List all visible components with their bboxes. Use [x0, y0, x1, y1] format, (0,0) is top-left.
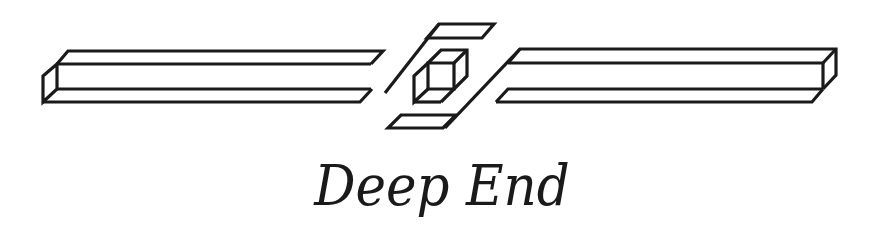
- right-bar-icon: [496, 49, 836, 102]
- left-bar-icon: [43, 51, 383, 102]
- logo-title: Deep End: [35, 146, 848, 226]
- center-cube-icon: [414, 50, 467, 102]
- deep-end-logo-mark: [0, 0, 884, 150]
- top-slab-icon: [427, 24, 494, 38]
